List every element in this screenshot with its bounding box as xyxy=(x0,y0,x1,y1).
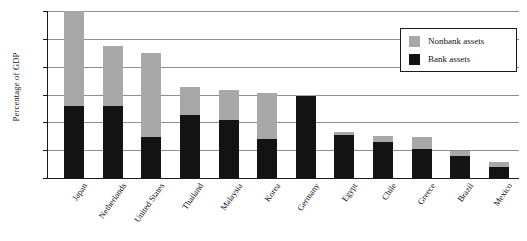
bar-segment-bank xyxy=(219,120,239,178)
bar-group xyxy=(373,136,393,178)
bar-segment-bank xyxy=(64,106,84,178)
bar-group xyxy=(334,132,354,178)
y-tick-mark xyxy=(43,39,48,40)
legend-label: Nonbank assets xyxy=(428,36,484,46)
bar-group xyxy=(219,90,239,178)
x-tick-label: Mexico xyxy=(491,181,514,208)
x-tick-label: Germany xyxy=(295,181,321,213)
gridline xyxy=(48,11,519,12)
legend-swatch xyxy=(409,54,420,65)
bar-group xyxy=(64,11,84,178)
x-tick-label: Korea xyxy=(262,181,282,204)
bar-group xyxy=(296,95,316,178)
x-tick-label: Japan xyxy=(70,181,89,203)
legend-entry: Bank assets xyxy=(409,54,516,65)
bar-segment-bank xyxy=(180,115,200,178)
bar-segment-nonbank xyxy=(141,53,161,138)
y-tick-mark xyxy=(43,11,48,12)
bar-segment-nonbank xyxy=(257,93,277,139)
bar-segment-nonbank xyxy=(219,90,239,120)
x-tick-label: Greece xyxy=(415,181,437,206)
stacked-bar-chart: Percentage of GDP 050100150200250300 Jap… xyxy=(0,0,527,241)
x-tick-label: Malaysia xyxy=(218,181,244,212)
y-axis-title: Percentage of GDP xyxy=(11,32,21,142)
bar-segment-bank xyxy=(257,139,277,178)
bar-group xyxy=(257,93,277,178)
bar-segment-bank xyxy=(334,135,354,178)
x-tick-label: Netherlands xyxy=(96,181,128,220)
bar-segment-bank xyxy=(489,167,509,178)
bar-segment-nonbank xyxy=(103,46,123,106)
x-tick-label: United States xyxy=(132,181,166,224)
bar-segment-bank xyxy=(141,137,161,178)
chart-legend: Nonbank assetsBank assets xyxy=(400,28,517,72)
x-tick-label: Brazil xyxy=(455,181,475,204)
bar-segment-bank xyxy=(412,149,432,178)
x-tick-label: Chile xyxy=(379,181,398,202)
legend-label: Bank assets xyxy=(428,54,470,64)
bar-group xyxy=(450,151,470,178)
bar-group xyxy=(141,53,161,178)
bar-group xyxy=(180,87,200,178)
bar-segment-nonbank xyxy=(180,87,200,115)
y-tick-mark xyxy=(43,150,48,151)
bar-segment-bank xyxy=(296,96,316,178)
x-tick-label: Egypt xyxy=(340,181,360,203)
bar-group xyxy=(412,137,432,178)
y-tick-mark xyxy=(43,95,48,96)
legend-entry: Nonbank assets xyxy=(409,36,516,47)
bar-segment-nonbank xyxy=(64,11,84,106)
y-tick-mark xyxy=(43,67,48,68)
bar-segment-bank xyxy=(373,142,393,178)
bar-segment-bank xyxy=(450,156,470,178)
x-tick-label: Thailand xyxy=(180,181,206,211)
bar-group xyxy=(103,46,123,178)
legend-swatch xyxy=(409,36,420,47)
bar-group xyxy=(489,162,509,178)
bar-segment-nonbank xyxy=(412,137,432,149)
y-tick-mark xyxy=(43,178,48,179)
bar-segment-bank xyxy=(103,106,123,178)
y-tick-mark xyxy=(43,122,48,123)
